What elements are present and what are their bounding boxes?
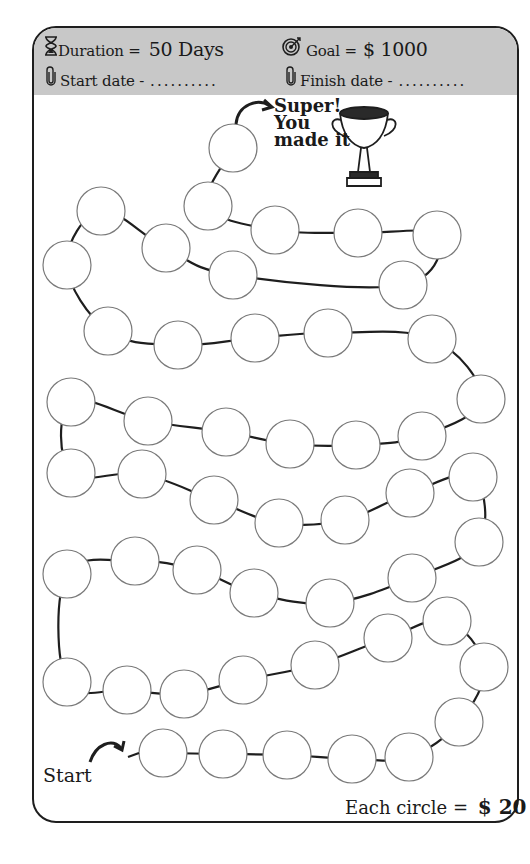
- savings-path-board: [0, 0, 530, 864]
- savings-circle-2[interactable]: [199, 730, 247, 778]
- savings-circle-32[interactable]: [266, 420, 314, 468]
- savings-circle-46[interactable]: [413, 211, 461, 259]
- savings-circle-37[interactable]: [304, 309, 352, 357]
- savings-circle-12[interactable]: [160, 670, 208, 718]
- savings-circle-43[interactable]: [142, 224, 190, 272]
- finish-line-3: made it: [274, 131, 350, 148]
- savings-circle-26[interactable]: [190, 476, 238, 524]
- savings-circle-48[interactable]: [251, 206, 299, 254]
- savings-circle-14[interactable]: [43, 658, 91, 706]
- savings-circle-47[interactable]: [334, 209, 382, 257]
- savings-circle-4[interactable]: [328, 735, 376, 783]
- savings-circle-16[interactable]: [111, 537, 159, 585]
- savings-circle-30[interactable]: [124, 397, 172, 445]
- savings-circle-38[interactable]: [231, 314, 279, 362]
- savings-circle-24[interactable]: [321, 496, 369, 544]
- savings-circle-39[interactable]: [154, 321, 202, 369]
- savings-circle-5[interactable]: [385, 733, 433, 781]
- savings-circle-41[interactable]: [43, 241, 91, 289]
- savings-circle-44[interactable]: [209, 251, 257, 299]
- savings-circle-8[interactable]: [423, 597, 471, 645]
- savings-circle-21[interactable]: [455, 518, 503, 566]
- finish-message: Super! You made it: [274, 97, 350, 148]
- savings-circle-19[interactable]: [306, 579, 354, 627]
- savings-circle-6[interactable]: [435, 698, 483, 746]
- savings-circle-1[interactable]: [139, 729, 187, 777]
- savings-circle-35[interactable]: [457, 375, 505, 423]
- savings-circle-13[interactable]: [103, 666, 151, 714]
- finish-arrow-icon: [236, 103, 270, 124]
- savings-circle-25[interactable]: [255, 499, 303, 547]
- start-label: Start: [43, 766, 92, 785]
- savings-circles: [43, 124, 508, 783]
- savings-circle-34[interactable]: [398, 412, 446, 460]
- each-circle-note: Each circle = $ 20: [345, 797, 526, 817]
- each-circle-label: Each circle =: [345, 797, 468, 818]
- savings-circle-33[interactable]: [332, 421, 380, 469]
- savings-circle-11[interactable]: [219, 656, 267, 704]
- savings-circle-23[interactable]: [386, 469, 434, 517]
- savings-circle-17[interactable]: [173, 546, 221, 594]
- savings-circle-20[interactable]: [388, 554, 436, 602]
- each-circle-value: $ 20: [478, 795, 527, 819]
- savings-circle-22[interactable]: [449, 453, 497, 501]
- savings-circle-9[interactable]: [364, 614, 412, 662]
- savings-circle-27[interactable]: [118, 450, 166, 498]
- savings-circle-7[interactable]: [460, 643, 508, 691]
- savings-circle-36[interactable]: [408, 315, 456, 363]
- savings-circle-42[interactable]: [77, 187, 125, 235]
- savings-circle-15[interactable]: [43, 550, 91, 598]
- savings-circle-45[interactable]: [379, 261, 427, 309]
- start-connector: [128, 753, 139, 757]
- savings-circle-31[interactable]: [202, 408, 250, 456]
- savings-circle-18[interactable]: [230, 569, 278, 617]
- savings-circle-10[interactable]: [291, 641, 339, 689]
- savings-circle-28[interactable]: [47, 449, 95, 497]
- savings-circle-49[interactable]: [184, 182, 232, 230]
- savings-circle-29[interactable]: [47, 378, 95, 426]
- savings-circle-50[interactable]: [209, 124, 257, 172]
- savings-circle-3[interactable]: [263, 731, 311, 779]
- savings-circle-40[interactable]: [84, 307, 132, 355]
